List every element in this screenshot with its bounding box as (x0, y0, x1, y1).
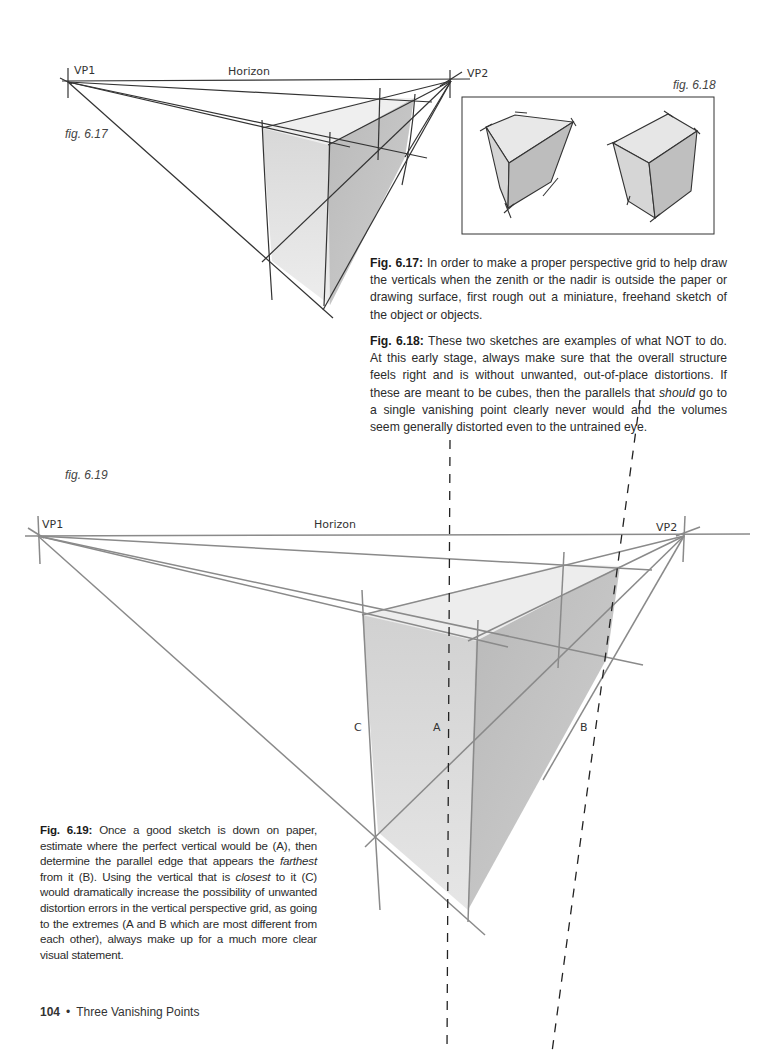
caption-fig-6-18: Fig. 6.18: These two sketches are exampl… (370, 333, 727, 436)
caption-fig-6-19-emphasis-1: farthest (280, 854, 317, 867)
page-number: 104 (40, 1005, 60, 1019)
marker-b-label: B (580, 721, 588, 734)
fig-6-17-horizon-label: Horizon (228, 65, 270, 78)
fig-6-17-label: fig. 6.17 (65, 127, 108, 141)
fig-6-19-vp1-label: VP1 (42, 518, 63, 531)
caption-fig-6-19-title: Fig. 6.19: (40, 823, 92, 836)
caption-fig-6-17-title: Fig. 6.17: (370, 256, 423, 270)
caption-fig-6-19-text-3: to it (C) would dramatically increase th… (40, 870, 317, 961)
caption-fig-6-19-emphasis-2: closest (236, 870, 271, 883)
fig-6-18-label: fig. 6.18 (673, 78, 716, 92)
caption-fig-6-18-emphasis: should (659, 386, 695, 400)
fig-6-19-horizon-label: Horizon (314, 518, 356, 531)
fig-6-17-vp1-label: VP1 (74, 64, 95, 77)
fig-6-18-distorted-cube-2 (607, 111, 700, 222)
marker-c-label: C (354, 721, 362, 734)
marker-a-label: A (433, 721, 441, 734)
caption-fig-6-17-text: In order to make a proper perspective gr… (370, 256, 727, 322)
caption-fig-6-19-text-2: from it (B). Using the vertical that is (40, 870, 236, 883)
chapter-title: Three Vanishing Points (76, 1005, 199, 1019)
fig-6-19-box (362, 564, 620, 910)
fig-6-19-label: fig. 6.19 (65, 468, 108, 482)
page-footer: 104•Three Vanishing Points (40, 1005, 199, 1019)
fig-6-18-distorted-cube-1 (480, 112, 576, 218)
fig-6-19-vp2-label: VP2 (656, 521, 677, 534)
caption-fig-6-19: Fig. 6.19: Once a good sketch is down on… (40, 822, 317, 962)
fig-6-17-vp2-label: VP2 (467, 67, 488, 80)
caption-fig-6-18-title: Fig. 6.18: (370, 334, 424, 348)
footer-separator: • (66, 1005, 70, 1019)
caption-fig-6-17: Fig. 6.17: In order to make a proper per… (370, 255, 727, 324)
